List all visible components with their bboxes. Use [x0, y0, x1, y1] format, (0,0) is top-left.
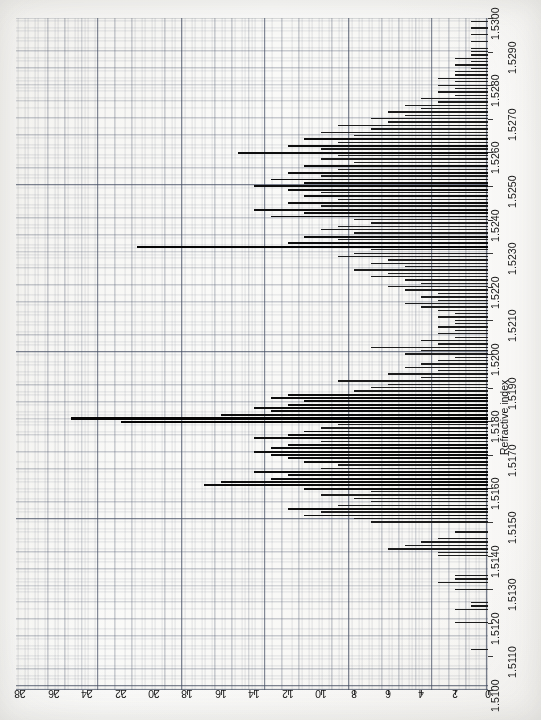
- histogram-bar: [388, 121, 488, 122]
- histogram-bar: [471, 649, 488, 650]
- refractive-index-tick-label: 1.5110: [506, 646, 518, 678]
- histogram-bar: [321, 229, 488, 230]
- histogram-bar: [421, 108, 488, 109]
- histogram-bar: [288, 172, 488, 174]
- histogram-bar: [438, 78, 488, 79]
- histogram-bar: [421, 340, 488, 341]
- histogram-bar: [455, 575, 488, 576]
- histogram-bar: [471, 602, 488, 603]
- histogram-bar: [371, 501, 488, 502]
- refractive-index-tick-label: 1.5120: [489, 612, 501, 645]
- histogram-bar: [254, 471, 488, 473]
- histogram-bar: [471, 21, 488, 22]
- histogram-bar: [304, 212, 488, 214]
- refractive-index-tick-label: 1.5290: [506, 41, 518, 74]
- histogram-bar: [471, 68, 488, 69]
- histogram-bar: [455, 64, 488, 65]
- histogram-bar: [304, 400, 488, 402]
- histogram-bar: [455, 578, 488, 579]
- histogram-bar: [438, 101, 488, 102]
- histogram-bar: [354, 498, 488, 499]
- histogram-bar: [321, 511, 488, 512]
- histogram-bar: [271, 179, 488, 181]
- histogram-bar: [321, 205, 488, 206]
- histogram-bar: [254, 185, 488, 187]
- histogram-bar: [438, 538, 488, 539]
- histogram-bar: [438, 552, 488, 553]
- histogram-bar: [288, 508, 488, 510]
- histogram-bar: [438, 360, 488, 361]
- refractive-index-tick-mark: [488, 388, 493, 389]
- histogram-bar: [388, 259, 488, 260]
- histogram-bar: [338, 169, 488, 170]
- histogram-bar: [388, 111, 488, 112]
- histogram-bar: [254, 407, 488, 409]
- histogram-bar: [238, 152, 489, 154]
- histogram-bar: [371, 491, 488, 492]
- histogram-bar: [204, 484, 488, 486]
- histogram-bar: [304, 182, 488, 184]
- histogram-bar: [471, 48, 488, 49]
- histogram-bar: [321, 441, 488, 442]
- histogram-bar: [288, 444, 488, 446]
- refractive-index-tick-label: 1.5130: [506, 578, 518, 611]
- histogram-bar: [338, 226, 488, 227]
- histogram-bar: [137, 246, 488, 248]
- histogram-bar: [321, 468, 488, 469]
- histogram-bar: [455, 81, 488, 82]
- histogram-bar: [321, 148, 488, 149]
- histogram-bar: [438, 310, 488, 311]
- histogram-bar: [471, 51, 488, 52]
- histogram-bar: [321, 427, 488, 428]
- bar-series: [16, 18, 488, 690]
- refractive-index-tick-label: 1.5300: [489, 7, 501, 40]
- chart-page: 1.51001.51101.51201.51301.51401.51501.51…: [0, 0, 541, 720]
- histogram-bar: [271, 216, 488, 218]
- histogram-bar: [254, 209, 488, 211]
- histogram-bar: [288, 242, 488, 244]
- histogram-bar: [288, 457, 488, 459]
- histogram-bar: [354, 253, 488, 254]
- histogram-bar: [354, 232, 488, 233]
- histogram-bar: [271, 454, 488, 456]
- refractive-index-tick-mark: [488, 320, 493, 321]
- histogram-bar: [471, 605, 488, 606]
- histogram-bar: [288, 474, 488, 476]
- histogram-bar: [354, 390, 488, 391]
- histogram-bar: [405, 545, 489, 546]
- histogram-bar: [438, 343, 488, 344]
- histogram-bar: [455, 357, 488, 358]
- histogram-bar: [338, 239, 488, 240]
- histogram-bar: [438, 333, 488, 334]
- histogram-bar: [338, 155, 488, 156]
- histogram-bar: [371, 118, 488, 119]
- histogram-bar: [271, 410, 488, 412]
- histogram-bar: [405, 266, 489, 267]
- histogram-bar: [388, 548, 488, 549]
- histogram-bar: [338, 256, 488, 257]
- histogram-bar: [405, 279, 489, 280]
- histogram-bar: [455, 88, 488, 89]
- refractive-index-tick-mark: [488, 522, 493, 523]
- histogram-bar: [421, 377, 488, 378]
- histogram-bar: [371, 521, 488, 522]
- histogram-bar: [371, 222, 488, 223]
- histogram-bar: [388, 373, 488, 374]
- histogram-bar: [71, 417, 489, 419]
- histogram-bar: [405, 353, 489, 354]
- histogram-bar: [455, 320, 488, 321]
- histogram-bar: [288, 434, 488, 436]
- refractive-index-tick-label: 1.5150: [506, 511, 518, 544]
- histogram-bar: [338, 380, 488, 381]
- histogram-bar: [455, 74, 488, 75]
- refractive-index-tick-mark: [488, 656, 493, 657]
- histogram-bar: [371, 276, 488, 277]
- histogram-bar: [455, 58, 488, 59]
- refractive-index-tick-label: 1.5250: [506, 175, 518, 208]
- histogram-bar: [471, 27, 488, 28]
- refractive-index-tick-label: 1.5270: [506, 108, 518, 141]
- histogram-bar: [438, 555, 488, 556]
- histogram-bar: [455, 313, 488, 314]
- histogram-bar: [354, 269, 488, 270]
- histogram-bar: [405, 105, 489, 106]
